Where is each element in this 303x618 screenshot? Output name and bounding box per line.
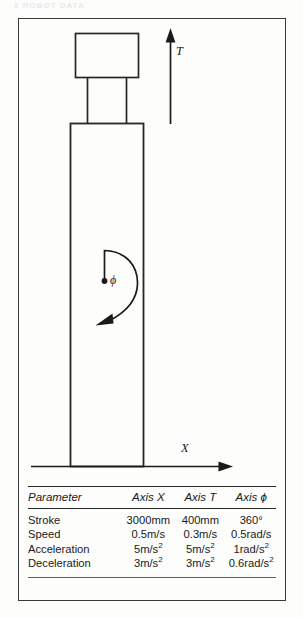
cell-acceleration-axis-t: 5m/s2 xyxy=(174,542,226,556)
unit-exponent: 2 xyxy=(210,555,214,564)
table-header-row: Parameter Axis X Axis T Axis ϕ xyxy=(28,487,276,509)
parameter-table: Parameter Axis X Axis T Axis ϕ Stroke 30… xyxy=(28,486,276,572)
value-text: 3m/s xyxy=(186,557,210,569)
cell-acceleration-axis-x: 5m/s2 xyxy=(122,542,174,556)
column-header-parameter: Parameter xyxy=(28,487,122,509)
value-text: 5m/s xyxy=(134,543,158,555)
table-bottom-rule xyxy=(28,577,276,578)
cell-parameter-speed: Speed xyxy=(28,528,122,542)
cell-deceleration-axis-phi: 0.6rad/s2 xyxy=(226,557,276,573)
value-text: 0.6rad/s xyxy=(229,557,269,569)
table-row: Acceleration 5m/s2 5m/s2 1rad/s2 xyxy=(28,542,276,556)
cell-parameter-acceleration: Acceleration xyxy=(28,542,122,556)
cell-speed-axis-t: 0.3m/s xyxy=(174,528,226,542)
value-text: 1rad/s xyxy=(233,543,264,555)
phi-axis-label: ϕ xyxy=(110,273,116,288)
cell-deceleration-axis-t: 3m/s2 xyxy=(174,557,226,573)
cell-stroke-axis-t: 400mm xyxy=(174,509,226,528)
unit-exponent: 2 xyxy=(158,555,162,564)
t-axis-label: T xyxy=(176,44,183,59)
scan-header-fragment: 2 ROBOT DATA xyxy=(14,1,164,10)
table-row: Deceleration 3m/s2 3m/s2 0.6rad/s2 xyxy=(28,557,276,573)
table-row: Stroke 3000mm 400mm 360° xyxy=(28,509,276,528)
cell-parameter-deceleration: Deceleration xyxy=(28,557,122,573)
cell-deceleration-axis-x: 3m/s2 xyxy=(122,557,174,573)
value-text: 5m/s xyxy=(186,543,210,555)
cell-stroke-axis-phi: 360° xyxy=(226,509,276,528)
cell-speed-axis-phi: 0.5rad/s xyxy=(226,528,276,542)
column-header-axis-t: Axis T xyxy=(174,487,226,509)
table-row: Speed 0.5m/s 0.3m/s 0.5rad/s xyxy=(28,528,276,542)
unit-exponent: 2 xyxy=(269,555,273,564)
unit-exponent: 2 xyxy=(158,541,162,550)
cell-acceleration-axis-phi: 1rad/s2 xyxy=(226,542,276,556)
unit-exponent: 2 xyxy=(210,541,214,550)
unit-exponent: 2 xyxy=(265,541,269,550)
column-header-axis-phi: Axis ϕ xyxy=(226,487,276,509)
cell-speed-axis-x: 0.5m/s xyxy=(122,528,174,542)
value-text: 3m/s xyxy=(134,557,158,569)
column-header-axis-x: Axis X xyxy=(122,487,174,509)
x-axis-label: X xyxy=(181,441,189,456)
cell-parameter-stroke: Stroke xyxy=(28,509,122,528)
cell-stroke-axis-x: 3000mm xyxy=(122,509,174,528)
